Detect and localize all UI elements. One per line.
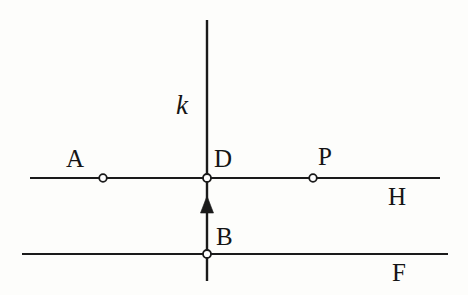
line-label-k: k <box>176 92 188 119</box>
arrow-up-icon <box>201 196 214 213</box>
line-label-h: H <box>388 184 406 209</box>
point-marker-b <box>203 250 211 258</box>
line-label-f: F <box>392 260 406 285</box>
point-marker-d <box>203 174 211 182</box>
point-marker-a <box>99 174 107 182</box>
point-marker-p <box>309 174 317 182</box>
geometry-figure: A D P B H F k <box>0 0 468 295</box>
point-label-b: B <box>216 224 233 249</box>
point-label-d: D <box>214 146 232 171</box>
point-label-a: A <box>66 146 84 171</box>
point-label-p: P <box>318 144 332 169</box>
